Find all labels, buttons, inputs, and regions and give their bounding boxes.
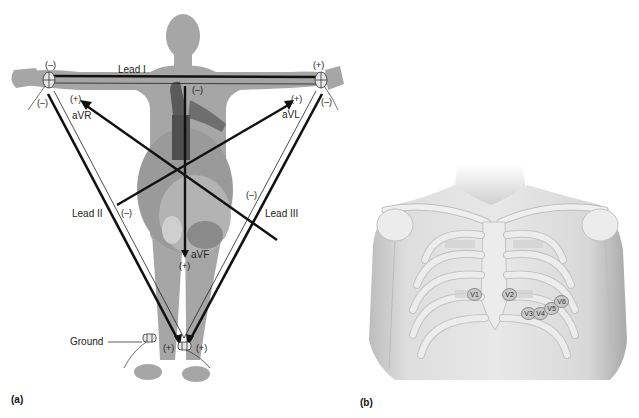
- left-leg-plus-left: (+): [163, 344, 174, 353]
- left-leg-plus-right: (+): [196, 344, 207, 353]
- avl-plus: (+): [291, 95, 302, 104]
- electrode-v2: V2: [502, 288, 517, 301]
- ground-electrode: [143, 334, 156, 342]
- lead-iii-minus: (–): [246, 191, 257, 200]
- avf-minus: (–): [192, 86, 203, 95]
- avf-label: aVF: [191, 250, 209, 260]
- lead-iii-label: Lead III: [265, 209, 298, 219]
- ground-label: Ground: [70, 337, 103, 347]
- avr-label: aVR: [72, 111, 91, 121]
- electrode-v6: V6: [554, 295, 569, 308]
- panel-a-label: (a): [11, 394, 23, 405]
- avf-plus: (+): [179, 262, 190, 271]
- limb-leads-panel: Lead I Lead II Lead III aVR aVL aVF Grou…: [0, 0, 345, 418]
- right-arm-electrode: [43, 72, 55, 88]
- left-leg-electrode: [178, 342, 191, 350]
- electrode-v1: V1: [467, 288, 482, 301]
- avr-plus: (+): [70, 95, 81, 104]
- lead-ii-minus: (–): [121, 209, 132, 218]
- left-arm-minus: (–): [321, 98, 332, 107]
- left-arm-electrode: [315, 72, 327, 88]
- lead-ii-label: Lead II: [72, 209, 103, 219]
- lead-i-label: Lead I: [118, 65, 146, 75]
- left-arm-plus: (+): [313, 61, 324, 70]
- right-arm-minus-top: (–): [45, 61, 56, 70]
- panel-b-label: (b): [360, 397, 373, 408]
- chest-illustration: [355, 0, 639, 418]
- right-arm-minus-bottom: (–): [37, 99, 48, 108]
- avl-label: aVL: [282, 110, 300, 120]
- chest-leads-panel: V1 V2 V3 V4 V5 V6 (b): [355, 0, 639, 418]
